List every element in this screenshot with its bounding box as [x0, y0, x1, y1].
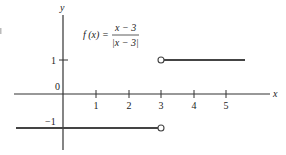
x-tick-label-3: 3	[159, 100, 164, 111]
x-tick-label-1: 1	[94, 100, 99, 111]
origin-label: 0	[55, 81, 60, 92]
function-graph: x y 1 2 3 4 5 1 −1 0 f (x) = x − 3 |x − …	[0, 0, 286, 155]
y-ticks: 1 −1 0	[45, 55, 68, 127]
x-tick-label-4: 4	[192, 100, 197, 111]
formula-denominator: |x − 3|	[112, 37, 139, 48]
formula-numerator: x − 3	[114, 22, 136, 33]
y-axis-label: y	[59, 2, 65, 13]
y-tick-label-1: 1	[51, 55, 56, 66]
open-point-upper	[158, 57, 164, 63]
x-ticks: 1 2 3 4 5	[94, 90, 229, 111]
open-point-lower	[158, 125, 164, 131]
y-tick-label-neg1: −1	[45, 116, 56, 127]
function-formula: f (x) = x − 3 |x − 3|	[83, 22, 139, 48]
formula-lhs: f (x) =	[83, 29, 109, 41]
stray-mark	[0, 28, 2, 34]
x-axis-label: x	[272, 88, 278, 99]
x-tick-label-5: 5	[224, 100, 229, 111]
x-tick-label-2: 2	[127, 100, 132, 111]
